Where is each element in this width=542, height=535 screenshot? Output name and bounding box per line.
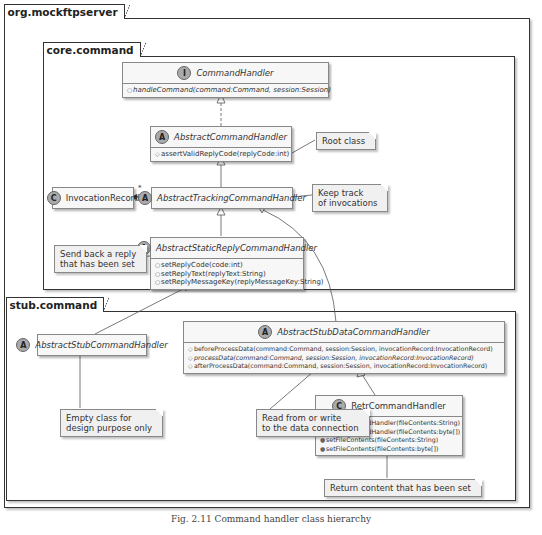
class-members: ◇beforeProcessData(command:Command, sess… <box>184 342 504 373</box>
method-item: ○setReplyText(replyText:String) <box>155 270 299 279</box>
abstract-badge-icon: A <box>155 130 169 144</box>
class-header: A AbstractStaticReplyCommandHandler <box>151 238 303 258</box>
class-header: C InvocationRecord <box>53 188 133 208</box>
note-keep-track: Keep track of invocations <box>312 184 388 212</box>
class-abstract-tracking-command-handler[interactable]: A AbstractTrackingCommandHandler <box>151 187 293 209</box>
method-item: ◇afterProcessData(command:Command, sessi… <box>188 362 500 371</box>
class-abstract-command-handler[interactable]: A AbstractCommandHandler ◇assertValidRep… <box>150 126 292 162</box>
note-data-connection: Read from or write to the data connectio… <box>256 409 370 437</box>
figure-caption: Fig. 2.11 Command handler class hierarch… <box>0 514 542 524</box>
class-header: A AbstractStubCommandHandler <box>38 335 146 355</box>
class-name: AbstractCommandHandler <box>174 132 287 142</box>
class-header: A AbstractCommandHandler <box>151 127 291 147</box>
class-header: I CommandHandler <box>123 63 328 83</box>
class-header: A AbstractTrackingCommandHandler <box>152 188 292 208</box>
note-return-content: Return content that has been set <box>324 479 482 497</box>
method-item: ◇assertValidReplyCode(replyCode:int) <box>155 150 287 159</box>
note-root-class: Root class <box>316 132 376 150</box>
class-name: InvocationRecord <box>66 193 140 203</box>
class-name: AbstractStaticReplyCommandHandler <box>156 243 317 253</box>
class-name: AbstractStubDataCommandHandler <box>277 327 430 337</box>
method-item: ○handleCommand(command:Command, session:… <box>127 86 324 95</box>
interface-badge-icon: I <box>177 66 191 80</box>
class-members: ○setReplyCode(code:int) ○setReplyText(re… <box>151 258 303 289</box>
method-item: ●setFileContents(fileContents:String) <box>320 436 458 445</box>
class-badge-icon: C <box>47 191 61 205</box>
note-empty-class: Empty class for design purpose only <box>60 409 163 437</box>
class-name: AbstractTrackingCommandHandler <box>157 193 306 203</box>
method-item: ◇beforeProcessData(command:Command, sess… <box>188 345 500 354</box>
package-label: core.command <box>43 42 141 57</box>
class-name: CommandHandler <box>196 68 273 78</box>
abstract-badge-icon: A <box>138 191 152 205</box>
method-item: ○setReplyCode(code:int) <box>155 261 299 270</box>
class-abstract-static-reply-command-handler[interactable]: A AbstractStaticReplyCommandHandler ○set… <box>150 237 304 290</box>
class-abstract-stub-data-command-handler[interactable]: A AbstractStubDataCommandHandler ◇before… <box>183 321 505 374</box>
method-item: ●setFileContents(fileContents:byte[]) <box>320 445 458 454</box>
class-invocation-record[interactable]: C InvocationRecord <box>52 187 134 209</box>
class-header: A AbstractStubDataCommandHandler <box>184 322 504 342</box>
abstract-badge-icon: A <box>258 325 272 339</box>
class-members: ◇assertValidReplyCode(replyCode:int) <box>151 147 291 161</box>
package-label: org.mockftpserver <box>4 4 125 19</box>
class-abstract-stub-command-handler[interactable]: A AbstractStubCommandHandler <box>37 334 147 356</box>
method-item: ◇processData(command:Command, session:Se… <box>188 354 500 363</box>
class-members: ○handleCommand(command:Command, session:… <box>123 83 328 97</box>
method-item: ○setReplyMessageKey(replyMessageKey:Stri… <box>155 278 299 287</box>
class-name: AbstractStubCommandHandler <box>35 340 167 350</box>
class-command-handler[interactable]: I CommandHandler ○handleCommand(command:… <box>122 62 329 98</box>
package-label: stub.command <box>6 297 105 312</box>
note-send-back-reply: Send back a reply that has been set <box>54 245 147 273</box>
